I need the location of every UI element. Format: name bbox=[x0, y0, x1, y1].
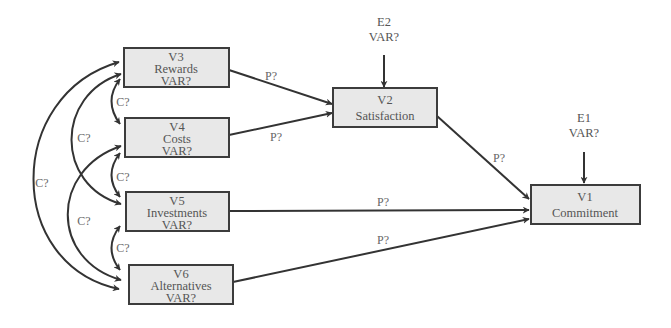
covariance-label-v3-v4: C? bbox=[116, 95, 129, 109]
node-v4: V4 Costs VAR? bbox=[125, 118, 229, 158]
node-v5: V5 Investments VAR? bbox=[126, 192, 229, 232]
covariance-label-v3-v5: C? bbox=[77, 131, 90, 145]
path-label-v6-v1: P? bbox=[377, 233, 389, 247]
path-label-v4-v2: P? bbox=[270, 130, 282, 144]
node-v2: V2 Satisfaction bbox=[333, 88, 437, 127]
error-e1: E1 VAR? bbox=[569, 111, 600, 140]
path-v5-v1 bbox=[229, 210, 529, 211]
node-v3: V3 Rewards VAR? bbox=[124, 48, 229, 88]
covariance-label-v4-v5: C? bbox=[116, 170, 129, 184]
path-label-v2-v1: P? bbox=[493, 151, 505, 165]
node-v4-var: VAR? bbox=[162, 144, 193, 158]
error-e1-var: VAR? bbox=[569, 126, 600, 140]
error-e2-id: E2 bbox=[377, 15, 391, 29]
path-label-v5-v1: P? bbox=[377, 195, 389, 209]
node-v2-name: Satisfaction bbox=[355, 109, 415, 123]
node-v1: V1 Commitment bbox=[531, 185, 640, 224]
path-v3-v2 bbox=[229, 70, 332, 104]
node-v2-id: V2 bbox=[377, 93, 392, 107]
error-e2-var: VAR? bbox=[369, 30, 400, 44]
node-v1-id: V1 bbox=[577, 190, 592, 204]
node-v1-name: Commitment bbox=[552, 206, 619, 220]
path-v6-v1 bbox=[233, 219, 529, 282]
covariance-label-v5-v6: C? bbox=[116, 241, 129, 255]
error-e2: E2 VAR? bbox=[369, 15, 400, 44]
path-label-v3-v2: P? bbox=[265, 69, 277, 83]
node-v6-var: VAR? bbox=[166, 291, 197, 305]
covariance-label-v4-v6: C? bbox=[77, 214, 90, 228]
covariance-label-v3-v6: C? bbox=[35, 176, 48, 190]
node-v3-var: VAR? bbox=[161, 74, 192, 88]
node-v5-var: VAR? bbox=[162, 218, 193, 232]
node-v6: V6 Alternatives VAR? bbox=[129, 265, 233, 305]
path-diagram: C? C? C? C? C? C? P? P? P? P? P? E2 VAR?… bbox=[0, 0, 671, 328]
error-e1-id: E1 bbox=[577, 111, 591, 125]
path-v2-v1 bbox=[437, 116, 529, 199]
